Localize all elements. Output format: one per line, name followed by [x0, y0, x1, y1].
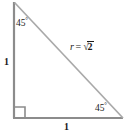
side-label-left-leg: 1 — [4, 57, 9, 67]
angle-label-bottom-right: 45° — [95, 104, 107, 114]
side-label-bottom-leg: 1 — [64, 122, 69, 132]
right-angle-marker — [15, 107, 25, 117]
degree-symbol-apex: ° — [25, 16, 28, 23]
geometry-figure: 45° 45° 1 1 r=√2 — [0, 0, 131, 135]
square-root-expression: √2 — [83, 41, 94, 52]
angle-label-apex: 45° — [16, 19, 28, 29]
degree-symbol-bottom-right: ° — [104, 101, 107, 108]
variable-r: r — [70, 41, 74, 52]
radical-sign: √ — [83, 41, 88, 52]
hypotenuse-label: r=√2 — [70, 41, 94, 52]
equals-sign: = — [75, 41, 81, 52]
